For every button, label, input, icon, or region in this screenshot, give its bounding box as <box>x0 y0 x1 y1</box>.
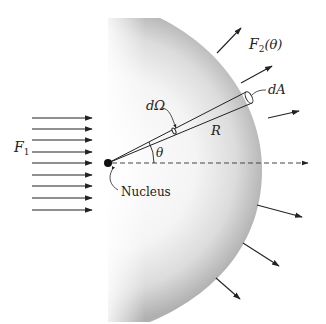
sphere-surface <box>100 18 262 322</box>
nucleus-dot <box>104 159 112 167</box>
nucleus-label: Nucleus <box>121 185 171 199</box>
scattered-flux-label: F2(θ) <box>248 36 282 54</box>
solid-angle-label: dΩ <box>146 98 165 113</box>
incident-flux-label: F1 <box>13 139 29 157</box>
angle-label: θ <box>156 146 164 160</box>
area-element-label: dA <box>268 82 286 97</box>
radius-label: R <box>210 123 221 138</box>
scattering-diagram: F1 F2(θ) dA dΩ R θ Nucleus <box>0 0 326 324</box>
dA-leader <box>252 90 266 95</box>
incident-flux-arrows <box>32 118 92 210</box>
